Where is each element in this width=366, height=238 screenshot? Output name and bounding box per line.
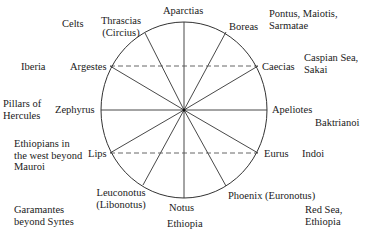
spoke-caecias xyxy=(184,66,258,110)
region-label-iberia: Iberia xyxy=(21,61,45,73)
spoke-lips xyxy=(110,110,184,153)
region-label-pillars: Pillars of Hercules xyxy=(3,98,41,121)
wind-label-aparctias: Aparctias xyxy=(163,5,203,17)
spoke-leuconotus xyxy=(143,110,184,185)
region-label-pontus: Pontus, Maiotis, Sarmatae xyxy=(269,8,338,31)
region-label-indoi: Indoi xyxy=(302,148,324,160)
wind-label-apeliotes: Apeliotes xyxy=(272,104,312,116)
spoke-boreas xyxy=(184,32,226,110)
region-label-ethiopians-west: Ethiopians in the west beyond Mauroi xyxy=(14,138,82,173)
wind-label-boreas: Boreas xyxy=(229,21,258,33)
wind-label-thrascias: Thrascias (Circius) xyxy=(96,15,146,38)
wind-label-lips: Lips xyxy=(88,148,107,160)
wind-label-leuconotus: Leuconotus (Libonotus) xyxy=(91,187,151,210)
wind-rose-diagram: Aparctias Boreas Caecias Apeliotes Eurus… xyxy=(0,0,366,238)
region-label-caspian: Caspian Sea, Sakai xyxy=(304,52,358,75)
wind-label-eurus: Eurus xyxy=(264,148,289,160)
wind-label-zephyrus: Zephyrus xyxy=(55,104,95,116)
region-label-celts: Celts xyxy=(62,18,84,30)
region-label-ethiopia: Ethiopia xyxy=(167,218,203,230)
center-point xyxy=(183,109,186,112)
wind-label-phoenix: Phoenix (Euronotus) xyxy=(228,190,315,202)
wind-label-argestes: Argestes xyxy=(70,61,107,73)
spoke-eurus xyxy=(184,110,258,153)
region-label-garamantes: Garamantes beyond Syrtes xyxy=(14,204,74,227)
wind-label-notus: Notus xyxy=(169,202,194,214)
spoke-phoenix xyxy=(184,110,226,186)
region-label-baktrianoi: Baktrianoi xyxy=(315,117,359,129)
region-label-red-sea: Red Sea, Ethiopia xyxy=(305,204,342,227)
wind-label-caecias: Caecias xyxy=(262,61,295,73)
